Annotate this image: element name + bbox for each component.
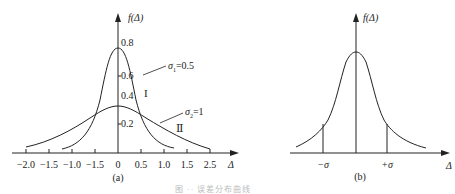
y-axis-label-a: f(Δ) xyxy=(128,13,143,23)
x-axis-arrow-b-icon xyxy=(441,150,450,156)
leader-sigma1 xyxy=(143,66,166,75)
sigma1-label: σ1=0.5 xyxy=(168,61,194,75)
y-tick-0.8: 0.8 xyxy=(121,38,134,48)
x-tick: 2.5 xyxy=(204,160,217,170)
plus-sigma-label: +σ xyxy=(381,160,393,170)
x-tick: 1.0 xyxy=(158,160,171,170)
panel-a-caption: (a) xyxy=(112,173,123,183)
x-tick: −1.5 xyxy=(86,160,104,170)
sigma2-label: σ2=1 xyxy=(185,107,204,121)
x-axis-arrow-icon xyxy=(230,150,239,156)
minus-sigma-label: −σ xyxy=(317,160,329,170)
x-tick: −1.5 xyxy=(40,160,58,170)
x-tick: −1.0 xyxy=(63,160,81,170)
x-tick: 1.5 xyxy=(181,160,194,170)
curve-normal xyxy=(296,52,426,148)
x-axis-label-b: Δ xyxy=(446,161,452,171)
panel-b-caption: (b) xyxy=(354,172,366,182)
curve-label-II: Ⅱ xyxy=(176,123,183,133)
x-tick: −2.0 xyxy=(17,160,35,170)
figure-caption: 图 ·· 误差分布曲线 xyxy=(175,183,251,194)
y-axis-arrow-icon xyxy=(115,13,121,22)
y-axis-label-b: f(Δ) xyxy=(363,13,378,23)
x-tick: 0.5 xyxy=(135,160,148,170)
x-axis-label-a: Δ xyxy=(228,160,234,170)
y-tick-0.2: 0.2 xyxy=(121,119,134,129)
y-tick-0.6: 0.6 xyxy=(121,71,134,81)
y-axis-arrow-b-icon xyxy=(353,13,359,22)
x-tick: 0 xyxy=(116,160,121,170)
y-tick-0.4: 0.4 xyxy=(121,91,134,101)
curve-label-I: I xyxy=(144,88,148,98)
